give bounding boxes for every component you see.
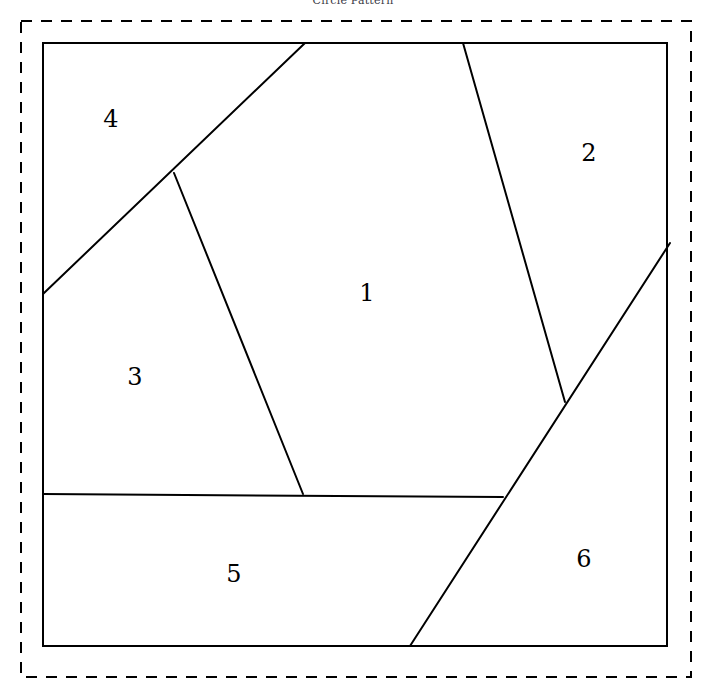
region-label-2: 2	[581, 139, 596, 167]
line-region5-horizontal-divider	[43, 494, 503, 497]
region-label-4: 4	[103, 105, 118, 133]
figure-canvas: Circle Pattern 1 2 3 4 5 6	[0, 0, 706, 695]
line-region6-long-diagonal	[410, 243, 670, 646]
solid-quadrilateral-frame	[43, 43, 667, 646]
region-label-1: 1	[359, 279, 374, 307]
region-label-6: 6	[576, 545, 591, 573]
line-region3-region1-divider	[174, 173, 303, 494]
line-region4-divider	[43, 43, 305, 294]
line-region1-region2-divider	[463, 43, 565, 402]
region-label-3: 3	[127, 363, 142, 391]
partition-diagram: 1 2 3 4 5 6	[0, 0, 706, 695]
region-label-5: 5	[226, 560, 241, 588]
region-label-group: 1 2 3 4 5 6	[103, 105, 596, 588]
dashed-bounding-box	[21, 21, 691, 677]
